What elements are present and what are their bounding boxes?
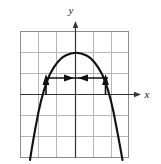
figure-background [0, 0, 161, 164]
y-axis-label: y [68, 4, 74, 16]
parabola-figure: x y [0, 0, 161, 164]
figure-canvas: x y [0, 0, 161, 164]
x-axis-label: x [144, 88, 150, 100]
